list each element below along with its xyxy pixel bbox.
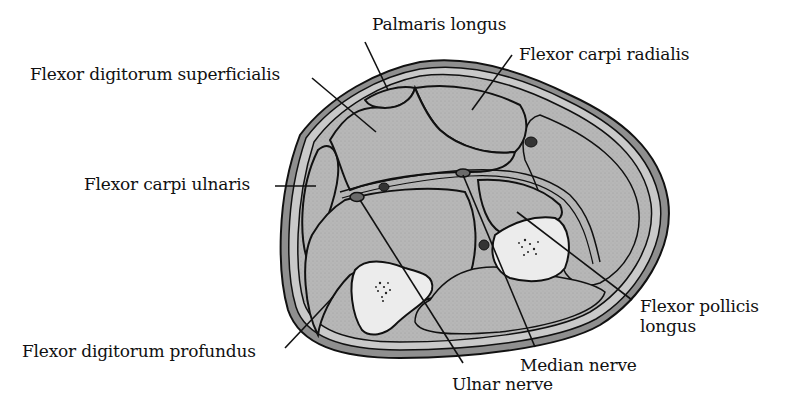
label-flexor-digitorum-superficialis: Flexor digitorum superficialis	[30, 64, 280, 84]
label-flexor-digitorum-profundus: Flexor digitorum profundus	[22, 341, 256, 361]
label-palmaris-longus: Palmaris longus	[372, 14, 506, 34]
label-flexor-carpi-radialis: Flexor carpi radialis	[519, 44, 689, 64]
ulnar-nerve-structure	[350, 193, 364, 202]
label-flexor-carpi-ulnaris: Flexor carpi ulnaris	[84, 174, 250, 194]
anterior-interosseous-vessel	[479, 240, 489, 250]
label-median-nerve: Median nerve	[520, 355, 637, 375]
ulnar-artery	[379, 183, 389, 191]
radial-artery	[525, 137, 537, 147]
label-flexor-pollicis-longus-line1: Flexor pollicis	[640, 296, 759, 316]
label-ulnar-nerve: Ulnar nerve	[452, 374, 553, 394]
forearm-cross-section-diagram: Palmaris longus Flexor carpi radialis Fl…	[0, 0, 786, 414]
label-flexor-pollicis-longus-line2: longus	[640, 316, 696, 336]
